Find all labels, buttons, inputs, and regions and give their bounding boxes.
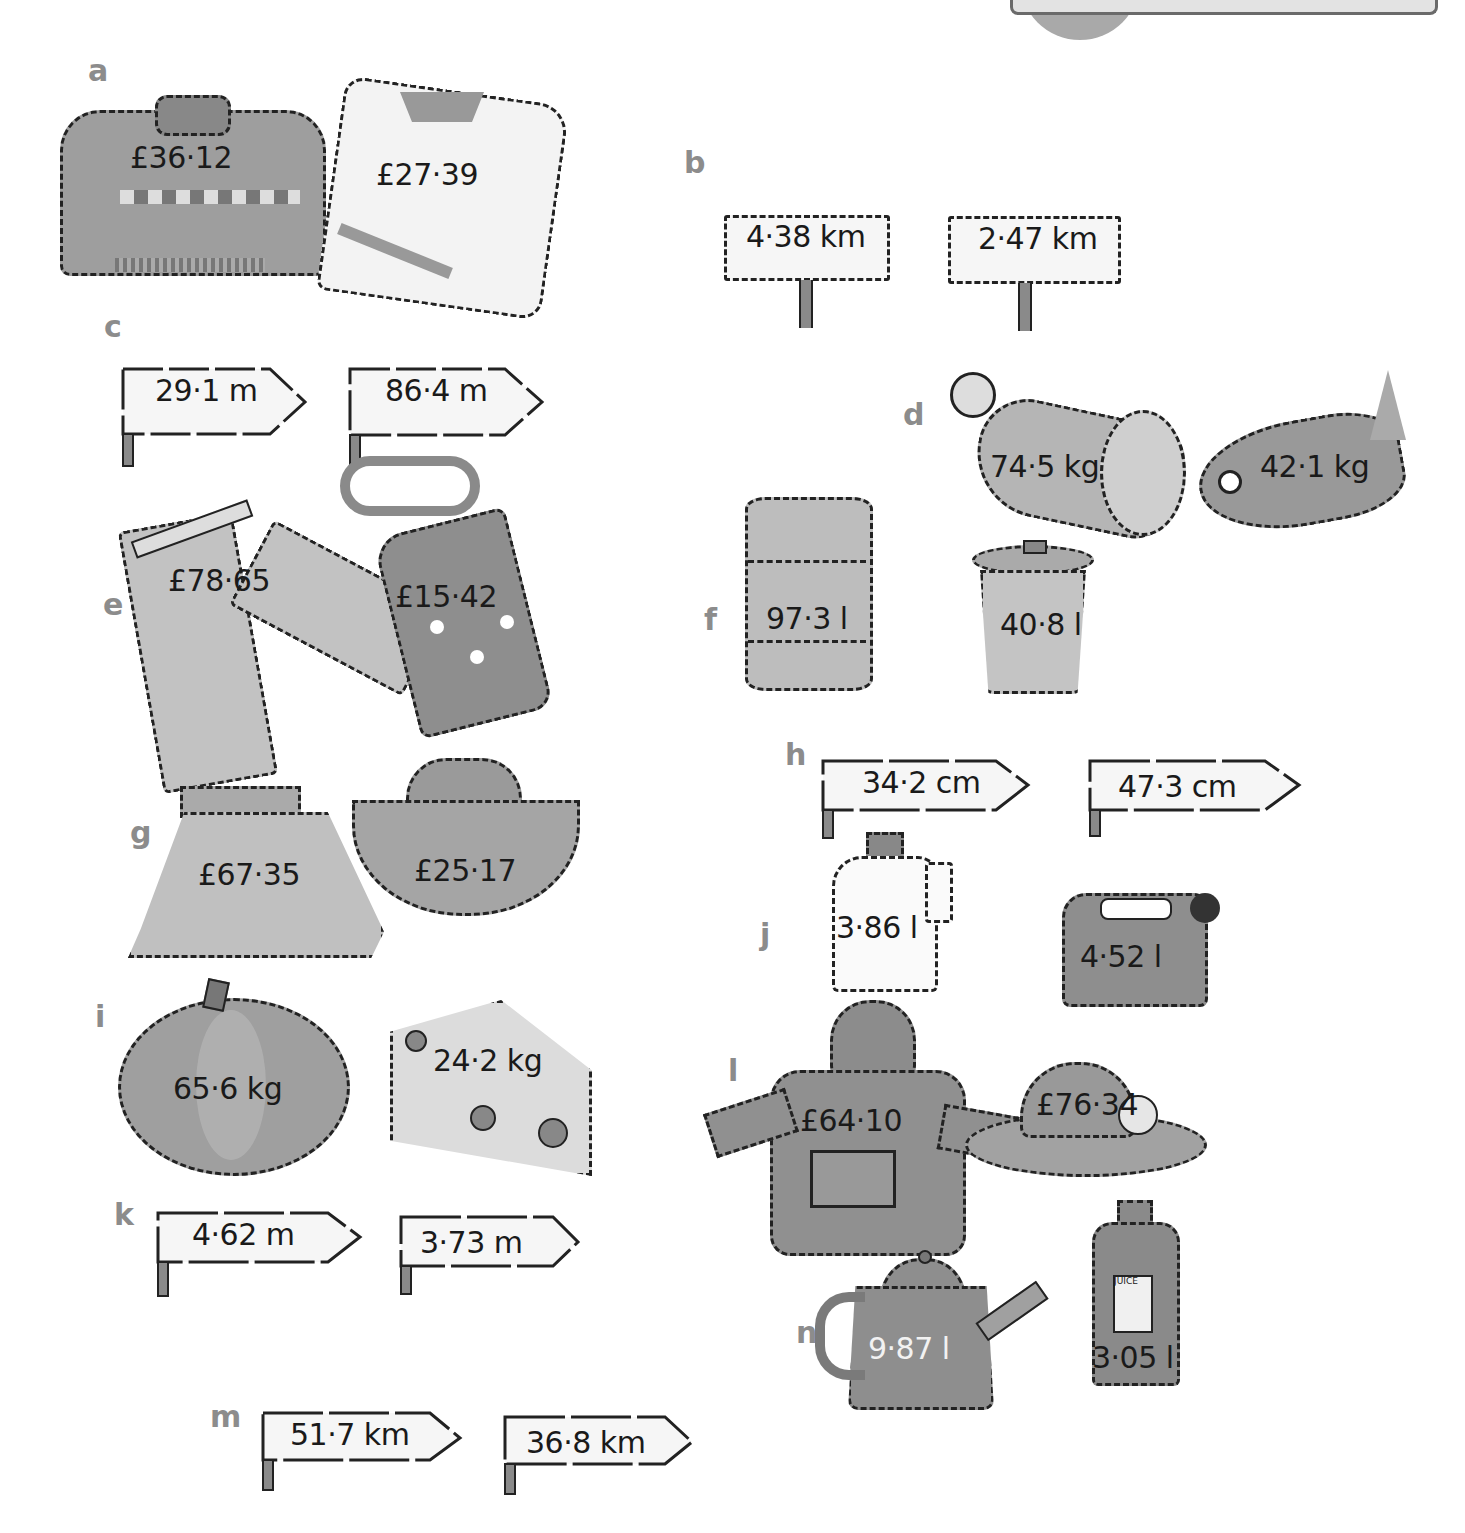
- jerrycan-volume: 4·52 l: [1080, 942, 1162, 972]
- item-label-a: a: [88, 56, 108, 86]
- jumper-price: £36·12: [130, 143, 232, 173]
- signpost-c2-distance: 86·4 m: [385, 376, 488, 406]
- item-label-f: f: [704, 605, 717, 635]
- item-label-h: h: [785, 740, 806, 770]
- skirt-price: £67·35: [198, 860, 300, 890]
- header-title-box: [1010, 0, 1438, 15]
- signpost-h2-length: 47·3 cm: [1118, 772, 1237, 802]
- pumpkin-weight: 65·6 kg: [173, 1074, 282, 1104]
- item-label-c: c: [104, 312, 122, 342]
- bottle-volume: 3·86 l: [836, 913, 918, 943]
- item-label-j: j: [760, 920, 770, 950]
- item-label-g: g: [130, 818, 151, 848]
- sun-hat-price: £76·34: [1036, 1090, 1138, 1120]
- item-label-b: b: [684, 148, 705, 178]
- fish-weight: 42·1 kg: [1260, 452, 1369, 482]
- signboard-2-distance: 2·47 km: [978, 224, 1097, 254]
- tie-price: £15·42: [395, 582, 497, 612]
- cricket-jumper-price: £27·39: [376, 160, 478, 190]
- signpost-k2-length: 3·73 m: [420, 1228, 523, 1258]
- item-label-l: l: [728, 1056, 738, 1086]
- item-label-e: e: [103, 590, 123, 620]
- juice-label-text: JUICE: [1114, 1276, 1138, 1286]
- signpost-k1-length: 4·62 m: [192, 1220, 295, 1250]
- hooded-coat-price: £64·10: [800, 1106, 902, 1136]
- item-label-d: d: [903, 400, 924, 430]
- signpost-h1-length: 34·2 cm: [862, 768, 981, 798]
- bin-volume: 40·8 l: [1000, 610, 1082, 640]
- cowboy-hat-price: £25·17: [414, 856, 516, 886]
- juice-bottle-volume: 3·05 l: [1092, 1343, 1174, 1373]
- signpost-m1-distance: 51·7 km: [290, 1420, 409, 1450]
- teapot-volume: 9·87 l: [868, 1334, 950, 1364]
- cheese-weight: 24·2 kg: [433, 1046, 542, 1076]
- signboard-1-distance: 4·38 km: [746, 222, 865, 252]
- signpost-c1-distance: 29·1 m: [155, 376, 258, 406]
- trousers-price: £78·65: [168, 566, 270, 596]
- drum-volume: 97·3 l: [766, 604, 848, 634]
- signpost-m2-distance: 36·8 km: [526, 1428, 645, 1458]
- item-label-i: i: [95, 1002, 105, 1032]
- ham-weight: 74·5 kg: [990, 452, 1099, 482]
- item-label-k: k: [114, 1200, 134, 1230]
- item-label-m: m: [210, 1402, 241, 1432]
